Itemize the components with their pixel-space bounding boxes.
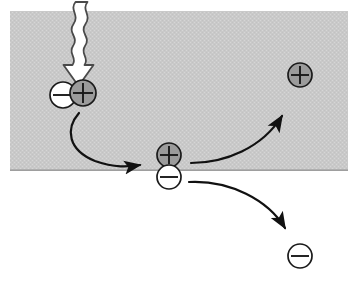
hole-transported-upper-right (288, 63, 312, 87)
electron-transported-lower-right (288, 244, 312, 268)
hole-interface-center (157, 143, 181, 167)
diagram-svg (0, 0, 361, 286)
hole-bound-left (70, 80, 96, 106)
figure-canvas (0, 0, 361, 286)
electron-transport-arrow (189, 182, 285, 228)
electron-interface-center (157, 165, 181, 189)
